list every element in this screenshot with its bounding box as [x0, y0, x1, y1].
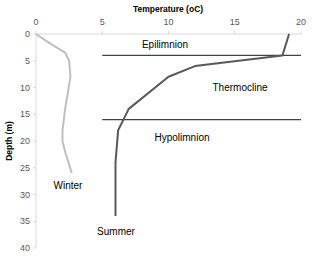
- y-tick: 15: [20, 109, 30, 119]
- y-tick: 10: [20, 83, 30, 93]
- x-tick: 5: [100, 17, 105, 27]
- thermocline-label: Thermocline: [212, 82, 267, 93]
- epilimnion-label: Epilimnion: [142, 39, 188, 50]
- y-tick: 30: [20, 190, 30, 200]
- y-tick: 25: [20, 163, 30, 173]
- winter-line: [36, 34, 72, 173]
- hypolimnion-label: Hypolimnion: [154, 132, 209, 143]
- y-tick: 0: [25, 29, 30, 39]
- temperature-depth-chart: Temperature (oC) 05101520 05101520253035…: [0, 0, 313, 259]
- x-tick: 10: [163, 17, 173, 27]
- y-axis-title: Depth (m): [4, 121, 14, 161]
- y-tick: 40: [20, 243, 30, 253]
- summer-label: Summer: [97, 226, 135, 237]
- y-tick-labels: 0510152025303540: [20, 29, 36, 253]
- x-tick: 15: [230, 17, 240, 27]
- y-tick: 35: [20, 216, 30, 226]
- y-tick: 5: [25, 56, 30, 66]
- x-tick-labels: 05101520: [33, 17, 306, 34]
- x-axis-title: Temperature (oC): [133, 4, 203, 14]
- x-tick: 20: [296, 17, 306, 27]
- y-tick: 20: [20, 136, 30, 146]
- x-tick: 0: [33, 17, 38, 27]
- winter-label: Winter: [54, 180, 84, 191]
- summer-line: [116, 34, 290, 216]
